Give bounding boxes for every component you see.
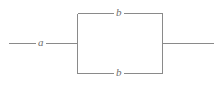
parallel-bottom-label-b: b bbox=[114, 67, 124, 78]
parallel-top-label-b: b bbox=[114, 7, 124, 18]
series-element-label-a: a bbox=[36, 37, 46, 48]
diagram-canvas: a b b bbox=[0, 0, 222, 87]
circuit-diagram bbox=[0, 0, 222, 87]
